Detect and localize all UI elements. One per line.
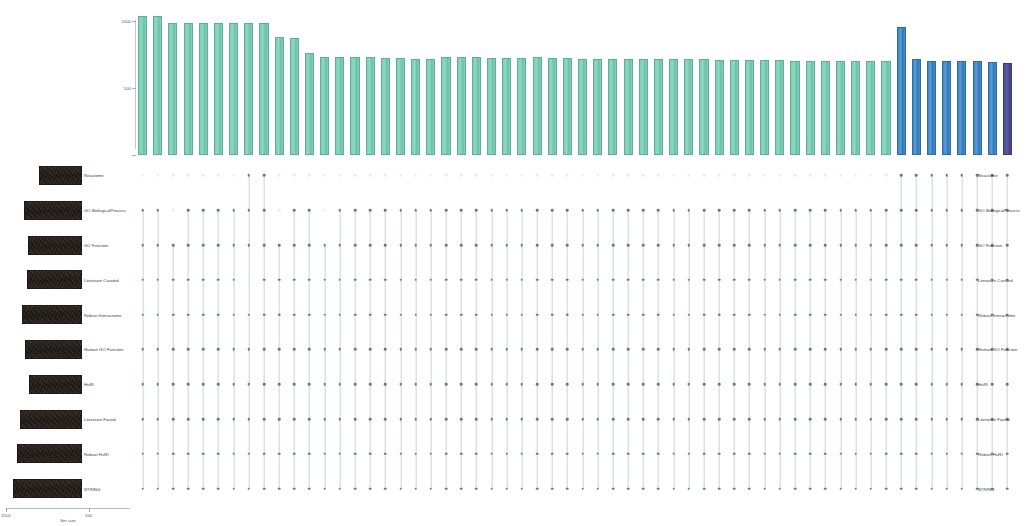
matrix-dot-active[interactable] [657,348,660,351]
matrix-dot-active[interactable] [323,313,326,316]
matrix-dot-active[interactable] [232,383,235,386]
intersection-bar[interactable]: 760 [305,53,314,155]
matrix-dot-active[interactable] [536,278,539,281]
matrix-dot-active[interactable] [687,383,690,386]
matrix-dot-active[interactable] [308,313,311,316]
intersection-bar-column[interactable]: 720 [608,0,617,155]
matrix-dot-inactive[interactable] [703,174,706,177]
matrix-dot-active[interactable] [566,209,569,212]
matrix-dot-active[interactable] [642,487,645,490]
matrix-dot-active[interactable] [521,418,524,421]
matrix-dot-active[interactable] [551,278,554,281]
intersection-bar-column[interactable]: 985 [259,0,268,155]
matrix-dot-inactive[interactable] [293,174,296,177]
intersection-bar-column[interactable]: 705 [806,0,815,155]
matrix-dot-active[interactable] [172,244,175,247]
matrix-dot-active[interactable] [217,383,220,386]
matrix-dot-active[interactable] [748,383,751,386]
matrix-dot-active[interactable] [536,383,539,386]
matrix-dot-active[interactable] [232,487,235,490]
matrix-dot-active[interactable] [915,348,918,351]
matrix-dot-active[interactable] [581,278,584,281]
matrix-dot-active[interactable] [703,278,706,281]
intersection-bar[interactable]: 695 [988,62,997,155]
matrix-row[interactable] [135,193,1015,228]
intersection-bar-column[interactable]: 725 [563,0,572,155]
matrix-dot-active[interactable] [900,487,903,490]
matrix-row[interactable] [135,471,1015,506]
intersection-bar[interactable]: 715 [684,59,693,155]
matrix-dot-active[interactable] [156,487,159,490]
matrix-dot-active[interactable] [490,452,493,455]
matrix-dot-active[interactable] [839,348,842,351]
matrix-dot-active[interactable] [824,452,827,455]
matrix-dot-active[interactable] [399,278,402,281]
intersection-bar[interactable]: 715 [669,59,678,155]
intersection-bar-column[interactable]: 720 [411,0,420,155]
matrix-dot-active[interactable] [475,487,478,490]
matrix-dot-active[interactable] [490,348,493,351]
matrix-dot-active[interactable] [809,209,812,212]
matrix-dot-active[interactable] [596,278,599,281]
matrix-dot-active[interactable] [672,452,675,455]
matrix-dot-active[interactable] [247,209,250,212]
matrix-dot-active[interactable] [930,418,933,421]
matrix-dot-active[interactable] [900,278,903,281]
intersection-bar-column[interactable]: 985 [214,0,223,155]
matrix-row[interactable] [135,367,1015,402]
matrix-dot-active[interactable] [566,278,569,281]
matrix-dot-active[interactable] [551,209,554,212]
matrix-dot-inactive[interactable] [202,174,205,177]
matrix-dot-active[interactable] [566,244,569,247]
matrix-dot-active[interactable] [839,487,842,490]
intersection-bar-column[interactable]: 985 [229,0,238,155]
matrix-dot-active[interactable] [687,313,690,316]
matrix-dot-active[interactable] [657,313,660,316]
intersection-bar-column[interactable]: 715 [912,0,921,155]
matrix-dot-inactive[interactable] [718,174,721,177]
matrix-dot-active[interactable] [642,383,645,386]
intersection-bar-column[interactable]: 700 [973,0,982,155]
matrix-dot-active[interactable] [885,313,888,316]
matrix-dot-active[interactable] [566,452,569,455]
matrix-dot-active[interactable] [202,244,205,247]
matrix-dot-active[interactable] [718,313,721,316]
matrix-dot-active[interactable] [445,313,448,316]
matrix-dot-active[interactable] [369,313,372,316]
matrix-dot-active[interactable] [794,313,797,316]
matrix-dot-active[interactable] [961,452,964,455]
matrix-dot-active[interactable] [779,278,782,281]
matrix-dot-active[interactable] [900,348,903,351]
matrix-dot-active[interactable] [187,487,190,490]
matrix-dot-active[interactable] [581,452,584,455]
matrix-dot-active[interactable] [354,418,357,421]
matrix-dot-inactive[interactable] [566,174,569,177]
intersection-bar-column[interactable]: 985 [184,0,193,155]
matrix-dot-active[interactable] [399,418,402,421]
matrix-dot-active[interactable] [794,452,797,455]
matrix-dot-active[interactable] [247,383,250,386]
intersection-bar-column[interactable]: 715 [669,0,678,155]
matrix-dot-active[interactable] [657,418,660,421]
matrix-dot-active[interactable] [369,383,372,386]
matrix-dot-active[interactable] [308,244,311,247]
matrix-dot-active[interactable] [278,487,281,490]
matrix-dot-active[interactable] [521,383,524,386]
matrix-dot-active[interactable] [824,209,827,212]
matrix-dot-active[interactable] [172,313,175,316]
matrix-dot-active[interactable] [945,313,948,316]
intersection-bar-column[interactable]: 720 [624,0,633,155]
matrix-dot-active[interactable] [870,244,873,247]
matrix-dot-active[interactable] [612,348,615,351]
matrix-dot-active[interactable] [308,418,311,421]
matrix-dot-active[interactable] [323,348,326,351]
intersection-bar[interactable]: 715 [426,59,435,155]
matrix-dot-active[interactable] [339,418,342,421]
matrix-dot-active[interactable] [430,487,433,490]
matrix-dot-inactive[interactable] [627,174,630,177]
matrix-dot-inactive[interactable] [794,174,797,177]
matrix-dot-active[interactable] [687,418,690,421]
matrix-dot-active[interactable] [263,278,266,281]
matrix-dot-active[interactable] [202,383,205,386]
matrix-dot-active[interactable] [354,452,357,455]
